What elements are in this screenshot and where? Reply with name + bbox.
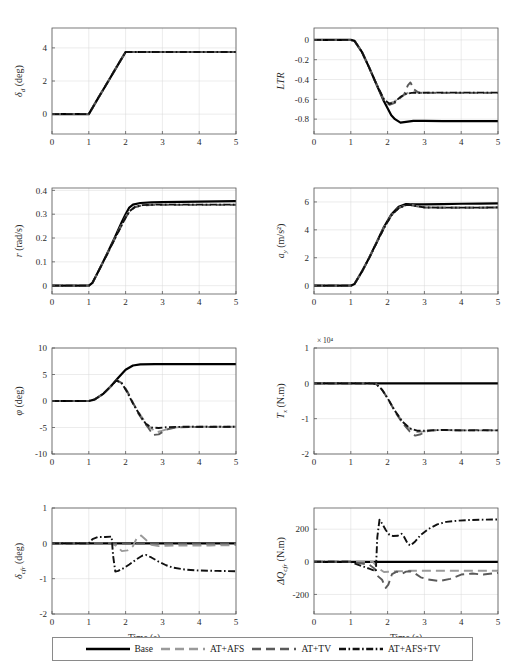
y-tick-label: 0 [43,539,48,549]
y-axis-title: ΔQcfr (N.m) [275,537,289,586]
y-tick-label: 0.2 [36,233,47,243]
svg-text:φ (deg): φ (deg) [13,386,25,415]
y-axis-title: δcfr (deg) [13,543,27,579]
legend-label: AT+TV [301,644,331,654]
x-tick-label: 4 [197,297,202,307]
x-tick-label: 5 [496,137,501,147]
x-tick-label: 3 [160,617,165,627]
series-line-at-afs-tv [52,205,236,286]
series-line-at-afs [52,52,236,114]
y-tick-label: -1 [40,574,48,584]
svg-text:LTR: LTR [275,72,286,90]
x-tick-label: 0 [312,457,317,467]
x-tick-label: 5 [496,297,501,307]
y-tick-label: -10 [35,449,47,459]
subplot-front-steer-correction: 01234510-1-2δcfr (deg)Time (s) [0,488,261,648]
y-tick-label: -5 [40,423,48,433]
legend-entry-base[interactable]: Base [85,643,153,655]
figure-legend: BaseAT+AFSAT+TVAT+AFS+TV [52,637,473,661]
x-tick-label: 0 [50,137,55,147]
legend-entry-at-afs-tv[interactable]: AT+AFS+TV [338,643,440,655]
x-tick-label: 4 [197,137,202,147]
figure-root: 012345024δd (deg)0123450-0.2-0.4-0.6-0.8… [0,0,523,670]
x-tick-label: 3 [422,617,427,627]
x-tick-label: 2 [385,457,390,467]
series-line-at-tv [314,205,498,286]
x-tick-label: 0 [50,457,55,467]
x-tick-label: 3 [422,137,427,147]
y-tick-label: -0.2 [295,55,309,65]
legend-label: AT+AFS+TV [388,644,440,654]
y-tick-label: 0 [305,281,310,291]
subplot-load-transfer-ratio: 0123450-0.2-0.4-0.6-0.8LTR [262,8,523,168]
x-tick-label: 1 [87,457,92,467]
y-tick-label: 4 [43,43,48,53]
x-tick-label: 4 [459,297,464,307]
x-tick-label: 3 [160,457,165,467]
series-line-at-tv [314,562,498,588]
legend-entry-at-afs[interactable]: AT+AFS [160,643,244,655]
plot-frame [314,28,498,134]
y-tick-label: 4 [305,225,310,235]
y-tick-label: -0.4 [295,75,310,85]
x-tick-label: 2 [123,297,128,307]
x-tick-label: 2 [385,137,390,147]
x-tick-label: 2 [123,617,128,627]
y-tick-label: 5 [43,370,48,380]
series-line-at-tv [314,40,498,105]
svg-text:ΔQcfr (N.m): ΔQcfr (N.m) [275,537,289,586]
x-tick-label: 2 [123,137,128,147]
legend-label: Base [135,644,153,654]
y-tick-label: 0 [43,281,48,291]
y-tick-label: 0 [305,557,310,567]
x-tick-label: 1 [87,297,92,307]
x-tick-label: 4 [197,617,202,627]
series-line-base [52,52,236,114]
y-tick-label: -2 [302,449,310,459]
x-tick-label: 0 [312,137,317,147]
subplot-roll-angle: 0123451050-5-10φ (deg) [0,328,261,488]
y-tick-label: 0 [43,109,48,119]
x-tick-label: 0 [50,617,55,627]
legend-line-swatch [338,643,384,655]
x-tick-label: 4 [459,617,464,627]
series-line-at-afs-tv [314,383,498,430]
y-tick-label: 2 [43,76,48,86]
x-tick-label: 2 [385,297,390,307]
x-tick-label: 1 [87,617,92,627]
legend-entry-at-tv[interactable]: AT+TV [251,643,331,655]
series-line-at-afs-tv [314,519,498,571]
y-tick-label: -200 [293,590,310,600]
svg-text:δcfr (deg): δcfr (deg) [13,543,27,579]
svg-text:Tx (N.m): Tx (N.m) [275,383,289,418]
x-tick-label: 5 [234,297,239,307]
y-axis-title: φ (deg) [13,386,25,415]
series-line-at-tv [52,52,236,114]
x-tick-label: 1 [349,137,354,147]
x-tick-label: 1 [349,617,354,627]
y-axis-title: ay (m/s²) [275,224,289,259]
series-line-at-afs [314,205,498,286]
x-tick-label: 3 [422,297,427,307]
series-line-base [314,203,498,285]
x-tick-label: 5 [496,457,501,467]
y-axis-title: δd (deg) [13,65,27,97]
svg-text:r (rad/s): r (rad/s) [13,225,25,258]
svg-text:ay (m/s²): ay (m/s²) [275,224,289,259]
subplot-yaw-rate: 01234500.10.20.30.4r (rad/s) [0,168,261,328]
y-tick-label: 10 [38,343,48,353]
legend-line-swatch [85,643,131,655]
series-line-base [52,364,236,401]
x-tick-label: 3 [160,137,165,147]
y-tick-label: 1 [305,343,310,353]
x-tick-label: 0 [312,297,317,307]
y-tick-label: 0.1 [36,257,47,267]
y-tick-label: -0.8 [295,114,310,124]
y-tick-label: 2 [305,253,310,263]
x-tick-label: 3 [422,457,427,467]
x-tick-label: 4 [459,137,464,147]
x-tick-label: 4 [197,457,202,467]
y-tick-label: 0 [305,379,310,389]
x-tick-label: 1 [349,457,354,467]
subplot-torque-vectoring-moment: 0123452000-200ΔQcfr (N.m)Time (s) [262,488,523,648]
